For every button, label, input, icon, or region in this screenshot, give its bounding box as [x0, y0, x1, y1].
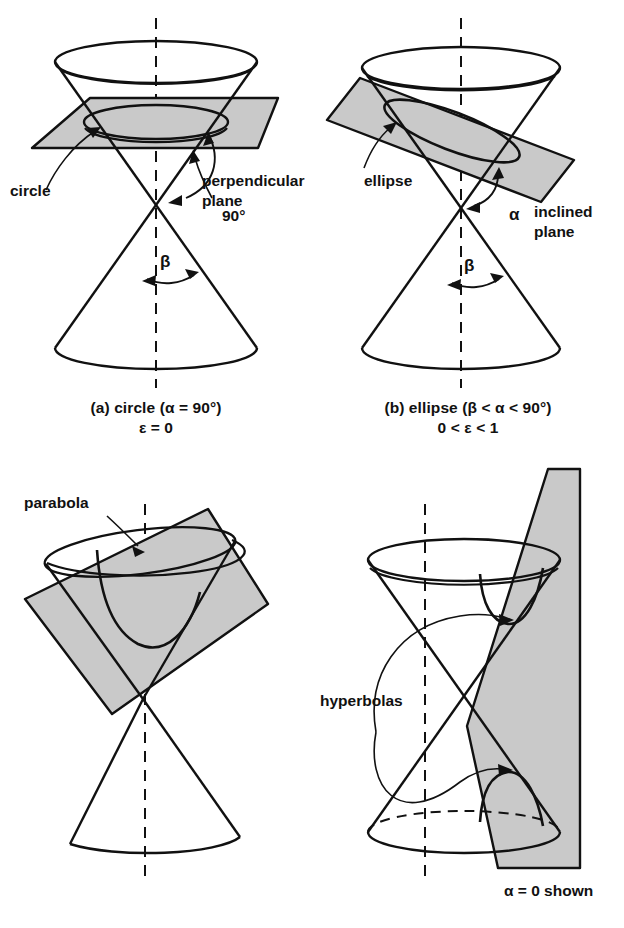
caption-b-line1: (b) ellipse (β < α < 90°) — [384, 399, 551, 416]
angle-beta-arrow-head-left — [447, 279, 461, 290]
label-inclined-plane-line1: inclined — [534, 203, 593, 221]
angle-90-arrow-head-lower — [168, 195, 182, 206]
label-ellipse: ellipse — [364, 172, 412, 190]
angle-alpha-arrow-head-lower — [466, 202, 480, 213]
label-angle-beta: β — [160, 252, 170, 272]
angle-beta-arrow-head-right — [490, 273, 504, 283]
panel-circle: circle perpendicular plane 90° β (a) cir… — [0, 0, 312, 464]
panel-ellipse-drawing — [312, 0, 624, 464]
label-perpendicular-plane-line1: perpendicular — [202, 172, 305, 190]
label-circle: circle — [10, 182, 51, 200]
cutting-plane — [25, 509, 268, 714]
caption-panel-b: (b) ellipse (β < α < 90°) 0 < ε < 1 — [312, 398, 624, 439]
label-angle-alpha: α — [509, 205, 519, 225]
label-hyperbolas: hyperbolas — [320, 692, 403, 710]
panel-hyperbolas: hyperbolas α = 0 shown (d) hyperbolas (0… — [312, 464, 624, 928]
label-alpha-zero-note: α = 0 shown — [504, 882, 593, 900]
label-angle-beta: β — [464, 256, 474, 276]
label-parabola: parabola — [24, 494, 89, 512]
lower-cone-base-rim — [70, 837, 240, 853]
conic-sections-figure: circle perpendicular plane 90° β (a) cir… — [0, 0, 624, 928]
angle-beta-arrow-head-left — [142, 275, 156, 286]
panel-ellipse: ellipse α inclined plane β (b) ellipse (… — [312, 0, 624, 464]
caption-panel-a: (a) circle (α = 90°) ε = 0 — [0, 398, 312, 439]
caption-a-line1: (a) circle (α = 90°) — [90, 399, 221, 416]
upper-cone-rim — [55, 41, 257, 83]
label-inclined-plane-line2: plane — [534, 223, 574, 241]
label-angle-90: 90° — [222, 207, 245, 225]
panel-parabola-drawing — [0, 464, 312, 928]
caption-a-line2: ε = 0 — [0, 418, 312, 438]
angle-beta-arrow-head-right — [185, 269, 199, 279]
caption-b-line2: 0 < ε < 1 — [312, 418, 624, 438]
panel-parabola: parabola (c) parabola (α = β) — [0, 464, 312, 928]
panel-circle-drawing — [0, 0, 312, 464]
